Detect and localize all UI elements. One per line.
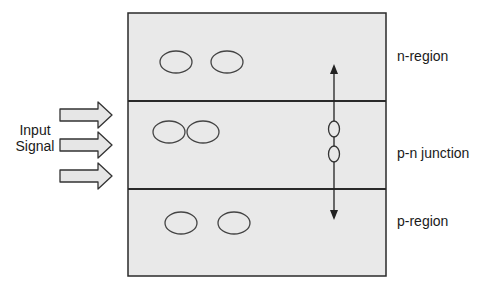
input-arrow-icon xyxy=(60,102,112,128)
input-signal-label: Input Signal xyxy=(8,122,62,154)
input-arrow-icon xyxy=(60,132,112,158)
p-region-label: p-region xyxy=(397,213,448,229)
n-region-label: n-region xyxy=(397,48,448,64)
junction-vertical-ellipse xyxy=(329,121,340,137)
junction-vertical-ellipse xyxy=(329,146,340,162)
input-label-line1: Input xyxy=(8,122,62,138)
pn-junction-label: p-n junction xyxy=(397,145,469,161)
input-label-line2: Signal xyxy=(8,138,62,154)
input-arrow-icon xyxy=(60,163,112,189)
